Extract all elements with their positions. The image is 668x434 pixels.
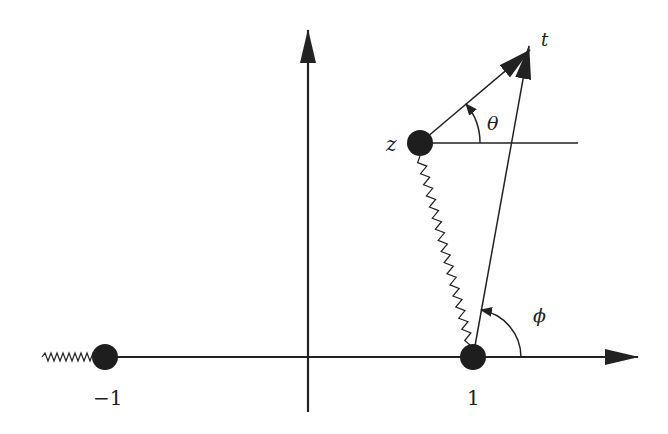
label-t: t [541, 29, 549, 50]
branch-cut-z-to-1 [418, 156, 471, 345]
label-phi: ϕ [533, 304, 546, 326]
label-one: 1 [467, 386, 480, 410]
label-minus-one: −1 [93, 386, 122, 410]
point-minus-one [92, 344, 118, 370]
point-z [407, 130, 433, 156]
label-z: z [385, 132, 397, 156]
theta-arc [466, 104, 480, 143]
diagram-canvas: z t θ ϕ −1 1 [0, 0, 668, 434]
branch-cut-left [42, 353, 96, 361]
label-theta: θ [487, 112, 499, 134]
point-one [460, 344, 486, 370]
phi-arc [481, 310, 521, 357]
